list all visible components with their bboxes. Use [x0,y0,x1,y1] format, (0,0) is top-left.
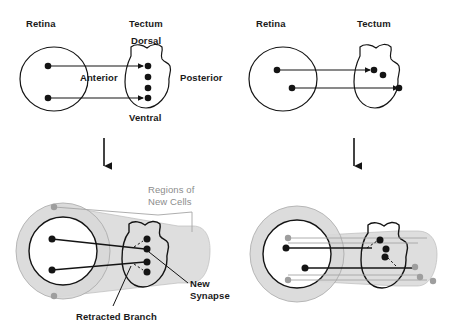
tectum-cell-bl-2 [144,246,151,253]
tectum-cell-br-3 [382,254,389,261]
new-synapse-line-1: New [190,278,210,289]
label-retina-top-right: Retina [256,18,286,29]
retina-new-cell-bl-1 [51,204,57,210]
retina-outline-tl [20,47,88,111]
label-dorsal-top-left: Dorsal [131,35,161,46]
tectum-new-cell-br-2 [417,274,423,280]
retina-cell-tr-2 [289,85,296,92]
tectum-cell-tl-2 [145,74,152,81]
new-synapse-line-2: Synapse [190,290,230,301]
tectum-cell-br-1 [377,237,384,244]
regions-line-2: New Cells [148,196,192,207]
tectum-new-cell-br-1 [412,264,418,270]
regions-line-1: Regions of [148,184,194,195]
label-regions-of-new-cells: Regions of New Cells [148,184,194,207]
retina-cell-bl-2 [49,267,56,274]
retina-cell-br-2 [302,265,309,272]
tectum-cell-bl-1 [144,236,151,243]
retina-new-cell-bl-2 [51,293,57,299]
tectum-cell-bl-4 [144,269,151,276]
retina-cell-tr-1 [274,67,281,74]
panel-bottom-left [16,203,210,306]
tectum-cell-tl-4 [145,95,152,102]
tectum-cell-tl-1 [145,63,152,70]
label-retracted-branch: Retracted Branch [76,311,157,322]
tectum-cell-bl-3 [144,259,151,266]
label-anterior-top-left: Anterior [80,72,118,83]
retina-outline-br [263,220,331,288]
retina-outline-tr [249,47,317,111]
tectum-cell-tr-1 [371,67,378,74]
tectum-new-cell-br-3 [430,278,436,284]
tectum-outline-tr [354,44,400,108]
retinotectal-figure: Retina Tectum Dorsal Ventral Anterior Po… [0,0,457,334]
tectum-cell-br-2 [383,246,390,253]
label-retina-top-left: Retina [26,18,56,29]
retina-new-cell-br-2 [285,277,291,283]
retina-cell-tl-1 [45,63,52,70]
label-posterior-top-left: Posterior [180,72,223,83]
retina-outline-bl [29,217,97,285]
leader-new-cells-3 [158,212,192,215]
label-new-synapse: New Synapse [190,278,230,301]
label-tectum-top-right: Tectum [357,18,391,29]
panel-top-right [249,44,402,111]
tectum-cell-tr-3 [396,85,403,92]
tectum-cell-tr-2 [380,72,387,79]
retina-cell-br-1 [283,245,290,252]
panel-bottom-right [250,206,437,302]
tectum-cell-tl-3 [145,85,152,92]
label-ventral-top-left: Ventral [129,112,161,123]
retina-cell-tl-2 [45,95,52,102]
retina-new-cell-br-1 [285,235,291,241]
label-tectum-top-left: Tectum [129,18,163,29]
retina-cell-bl-1 [49,236,56,243]
